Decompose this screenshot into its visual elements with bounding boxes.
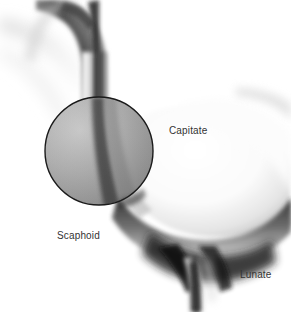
label-scaphoid: Scaphoid bbox=[57, 230, 100, 241]
label-capitate: Capitate bbox=[169, 125, 207, 136]
radiograph-image bbox=[0, 0, 291, 312]
wrist-radiograph-figure: Capitate Scaphoid Lunate bbox=[0, 0, 291, 312]
label-lunate: Lunate bbox=[240, 269, 272, 280]
